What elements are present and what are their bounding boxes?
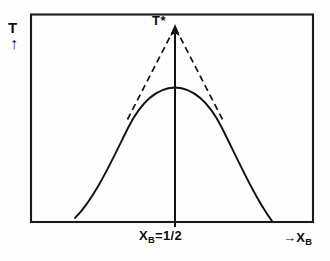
center-composition-value: =1/2 [155, 228, 182, 243]
spinodal-tangent-right [176, 28, 223, 120]
x-axis-label-subscript: B [305, 237, 312, 247]
coexistence-curve [75, 88, 272, 222]
critical-temperature-text: T* [152, 13, 166, 28]
critical-temperature-label: T* [152, 14, 166, 27]
plot-frame [31, 15, 313, 223]
phase-diagram-figure: T ↑ T* XB=1/2 →XB [0, 0, 330, 261]
spinodal-tangent-left [128, 28, 175, 120]
center-composition-symbol: X [139, 228, 148, 243]
y-axis-up-arrow-icon: ↑ [10, 36, 18, 52]
center-composition-subscript: B [148, 235, 155, 245]
x-axis-label-symbol: X [296, 230, 305, 245]
plot-canvas [0, 0, 330, 261]
y-axis-label-text: T [8, 19, 18, 36]
x-axis-label-composition: →XB [283, 231, 312, 247]
center-composition-label: XB=1/2 [139, 229, 182, 245]
x-axis-right-arrow-icon: → [283, 230, 296, 245]
y-axis-label-temperature: T [8, 20, 18, 35]
